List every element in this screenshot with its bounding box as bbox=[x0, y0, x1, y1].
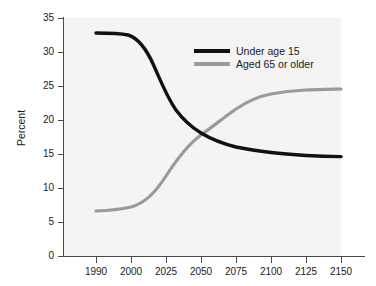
y-tick-mark bbox=[58, 52, 64, 53]
x-tick-mark bbox=[166, 257, 167, 263]
y-tick-mark bbox=[58, 120, 64, 121]
y-tick-label: 20 bbox=[43, 115, 54, 125]
x-tick-label: 1990 bbox=[76, 266, 116, 277]
y-tick-label: 15 bbox=[43, 149, 54, 159]
x-tick-label: 2075 bbox=[216, 266, 256, 277]
x-tick-label: 2050 bbox=[181, 266, 221, 277]
x-tick-label: 2125 bbox=[286, 266, 326, 277]
legend-item-under-age-15: Under age 15 bbox=[194, 41, 354, 54]
chart-legend: Under age 15 Aged 65 or older bbox=[194, 41, 354, 67]
x-tick-mark bbox=[306, 257, 307, 263]
y-tick-label: 25 bbox=[43, 81, 54, 91]
x-tick-label: 2000 bbox=[111, 266, 151, 277]
y-tick-mark bbox=[58, 256, 64, 257]
y-tick-mark bbox=[58, 86, 64, 87]
legend-swatch-icon bbox=[194, 49, 230, 53]
x-axis-line bbox=[63, 256, 365, 257]
legend-swatch-icon bbox=[194, 62, 230, 66]
x-tick-mark bbox=[131, 257, 132, 263]
x-tick-label: 2100 bbox=[251, 266, 291, 277]
chart-figure: 35 30 25 20 15 10 5 0 1990 2000 2025 205… bbox=[0, 0, 376, 286]
x-tick-label: 2150 bbox=[321, 266, 361, 277]
y-tick-label: 35 bbox=[43, 13, 54, 23]
x-tick-mark bbox=[341, 257, 342, 263]
x-tick-mark bbox=[236, 257, 237, 263]
legend-item-aged-65-or-older: Aged 65 or older bbox=[194, 54, 354, 67]
y-tick-label: 10 bbox=[43, 183, 54, 193]
y-axis-line bbox=[63, 17, 64, 257]
y-axis-title: Percent bbox=[15, 93, 27, 163]
y-tick-mark bbox=[58, 222, 64, 223]
x-tick-mark bbox=[271, 257, 272, 263]
y-tick-label: 30 bbox=[43, 47, 54, 57]
x-tick-label: 2025 bbox=[146, 266, 186, 277]
x-tick-mark bbox=[201, 257, 202, 263]
y-tick-label: 5 bbox=[48, 217, 54, 227]
y-tick-label: 0 bbox=[48, 251, 54, 261]
x-tick-mark bbox=[96, 257, 97, 263]
legend-label: Aged 65 or older bbox=[236, 58, 314, 70]
y-tick-mark bbox=[58, 188, 64, 189]
y-tick-mark bbox=[58, 154, 64, 155]
y-tick-mark bbox=[58, 18, 64, 19]
